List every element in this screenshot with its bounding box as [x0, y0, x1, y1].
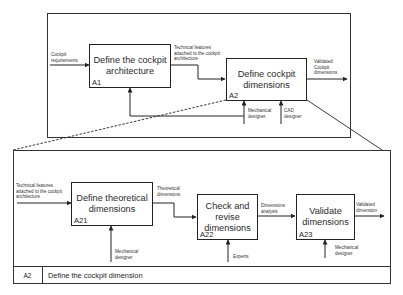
footer-node-id: A2	[13, 267, 42, 283]
activity-box-a23[interactable]: Validate dimensions A23	[296, 194, 355, 240]
activity-title: Define cockpit dimensions	[227, 69, 306, 91]
activity-title: Define the cockpit architecture	[90, 55, 170, 77]
activity-box-a21[interactable]: Define theoretical dimensions A21	[71, 182, 153, 226]
label-experts: Experts	[233, 254, 253, 260]
activity-title: Check and revise dimensions	[198, 201, 257, 234]
activity-id: A23	[299, 231, 312, 239]
label-theoretical-dimensions: Theoretical dimensions	[157, 186, 187, 197]
activity-id: A2	[229, 92, 238, 100]
label-mechanical-designer-a21: Mechanical designer	[115, 249, 145, 260]
label-technical-features: Technical features attached to the cockp…	[174, 45, 226, 62]
footer-node-title: Define the cockpit dimension	[43, 267, 383, 283]
activity-id: A1	[92, 79, 101, 87]
label-validated-cockpit-dimensions: Validated Cockpit dimensions	[314, 59, 344, 76]
label-mechanical-designer-a23: Mechanical designer	[335, 245, 365, 256]
activity-box-a1[interactable]: Define the cockpit architecture A1	[89, 44, 171, 88]
label-mechanical-designer: Mechanical designer	[248, 108, 278, 119]
label-technical-features-input: Technical features attached to the cockp…	[16, 183, 68, 200]
label-cockpit-requirements: Cockpit requirements	[51, 52, 85, 63]
label-dimensions-analysis: Dimensions analysis	[261, 203, 291, 214]
label-validated-dimension: Validated dimension	[356, 202, 384, 213]
activity-id: A21	[74, 217, 87, 225]
activity-id: A22	[200, 231, 213, 239]
label-cad-designer: CAD designer	[284, 108, 306, 119]
activity-title: Validate dimensions	[297, 206, 354, 228]
activity-title: Define theoretical dimensions	[72, 193, 152, 215]
idef0-diagram: Define the cockpit architecture A1 Defin…	[0, 0, 403, 295]
activity-box-a2[interactable]: Define cockpit dimensions A2	[226, 58, 307, 101]
activity-box-a22[interactable]: Check and revise dimensions A22	[197, 194, 258, 240]
